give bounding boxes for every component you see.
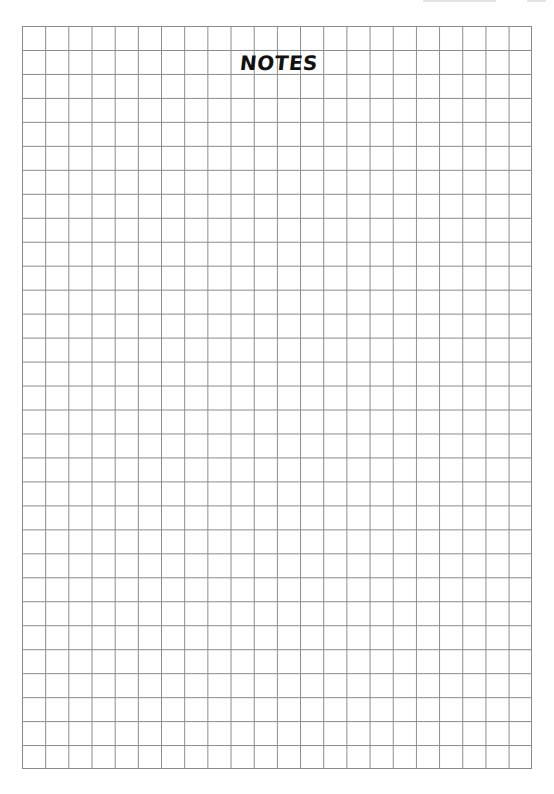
top-edge-strip	[527, 0, 546, 2]
page-title: NOTES	[236, 52, 322, 74]
top-edge-strip	[423, 0, 496, 2]
graph-paper-grid	[22, 26, 532, 769]
